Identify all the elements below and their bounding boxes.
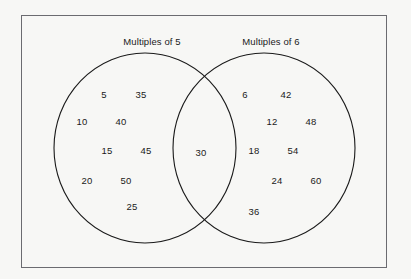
set-label-right: Multiples of 6 bbox=[242, 36, 299, 47]
member-left-10: 10 bbox=[77, 116, 88, 127]
member-left-15: 15 bbox=[102, 145, 113, 156]
member-right-54: 54 bbox=[288, 145, 299, 156]
member-left-40: 40 bbox=[116, 116, 127, 127]
venn-circles bbox=[0, 0, 411, 279]
member-right-48: 48 bbox=[306, 116, 317, 127]
member-right-60: 60 bbox=[311, 175, 322, 186]
member-left-50: 50 bbox=[121, 175, 132, 186]
member-left-5: 5 bbox=[101, 89, 106, 100]
member-right-24: 24 bbox=[272, 175, 283, 186]
venn-diagram-figure: Multiples of 5 Multiples of 6 5351040154… bbox=[0, 0, 411, 279]
member-left-25: 25 bbox=[127, 201, 138, 212]
member-right-42: 42 bbox=[281, 89, 292, 100]
member-left-45: 45 bbox=[141, 145, 152, 156]
member-right-18: 18 bbox=[249, 145, 260, 156]
member-right-12: 12 bbox=[267, 116, 278, 127]
member-right-6: 6 bbox=[242, 89, 247, 100]
set-label-left: Multiples of 5 bbox=[123, 36, 180, 47]
member-right-36: 36 bbox=[249, 206, 260, 217]
member-intersection-30: 30 bbox=[196, 147, 207, 158]
member-left-35: 35 bbox=[136, 89, 147, 100]
member-left-20: 20 bbox=[82, 175, 93, 186]
